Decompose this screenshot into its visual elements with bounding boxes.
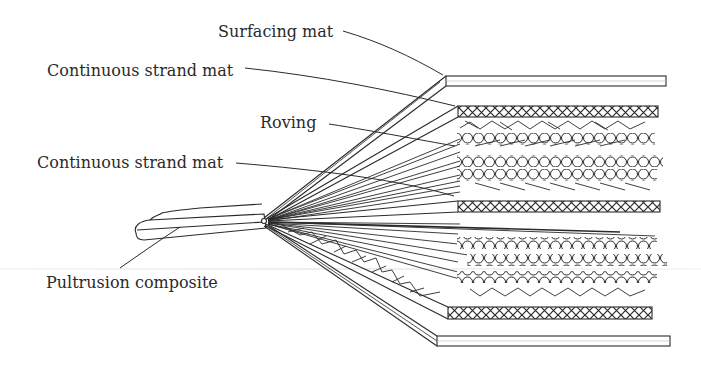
label-continuous-strand-mat-top: Continuous strand mat [47, 63, 233, 79]
label-roving: Roving [260, 115, 316, 131]
pultrusion-layup-figure [0, 0, 701, 373]
middle-continuous-strand-mat [268, 201, 660, 221]
diagram-canvas: Surfacing mat Continuous strand mat Rovi… [0, 0, 701, 373]
label-pultrusion-composite: Pultrusion composite [46, 275, 218, 291]
top-surfacing-mat [264, 76, 666, 220]
label-continuous-strand-mat-middle: Continuous strand mat [37, 155, 223, 171]
pultrusion-composite-part [135, 204, 266, 240]
label-surfacing-mat: Surfacing mat [218, 24, 333, 40]
